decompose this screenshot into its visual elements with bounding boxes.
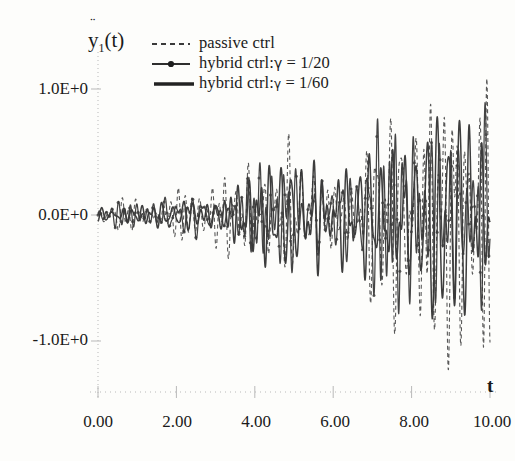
legend-item-hybrid-60: hybrid ctrl:γ = 1/60: [150, 73, 330, 93]
legend-label-hybrid-60-pre: hybrid ctrl:: [199, 73, 274, 92]
x-tick-label-0: 0.00: [68, 412, 128, 432]
legend-label-hybrid-60-post: = 1/60: [281, 73, 329, 92]
legend: passive ctrl hybrid ctrl:γ = 1/20 hybrid…: [150, 33, 330, 93]
legend-item-hybrid-20: hybrid ctrl:γ = 1/20: [150, 53, 330, 73]
legend-swatch-dashed: [150, 36, 194, 50]
legend-label-passive: passive ctrl: [199, 33, 275, 53]
y-symbol: y: [88, 28, 99, 52]
x-tick-label-2: 2.00: [147, 412, 207, 432]
legend-label-hybrid-20-post: = 1/20: [282, 53, 330, 72]
y-tick-label-0: 0.0E+0: [0, 205, 88, 225]
x-tick-label-4: 4.00: [226, 412, 286, 432]
x-tick-label-10: 10.00: [459, 412, 515, 432]
x-axis-label: t: [487, 375, 493, 397]
legend-label-hybrid-20-pre: hybrid ctrl:: [199, 53, 274, 72]
y-axis-label: ¨y1(t): [88, 28, 124, 56]
y-tick-label-neg1: -1.0E+0: [0, 330, 88, 350]
figure-panel: ¨y1(t) passive ctrl hybrid ctrl:γ = 1/20: [0, 0, 515, 461]
y-arg: (t): [105, 28, 125, 52]
x-tick-label-6: 6.00: [305, 412, 365, 432]
y-tick-label-1: 1.0E+0: [0, 79, 88, 99]
double-dot-accent: ¨: [90, 16, 96, 31]
x-tick-label-8: 8.00: [384, 412, 444, 432]
legend-item-passive: passive ctrl: [150, 33, 330, 53]
legend-swatch-line-dot: [150, 56, 194, 70]
legend-swatch-solid-thick: [150, 76, 194, 90]
